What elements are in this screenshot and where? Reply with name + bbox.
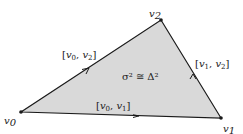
vertex-label-v2: v2 <box>149 8 161 21</box>
vertex-v0 <box>19 110 23 114</box>
vertex-label-v0: v0 <box>4 115 17 128</box>
face-label: σ² ≅ Δ² <box>122 71 158 82</box>
simplex-diagram: v0 v1 v2 [v0, v2] [v1, v2] [v0, v1] σ² ≅… <box>0 0 243 134</box>
vertex-v1 <box>219 116 223 120</box>
edge-label-v1-v2: [v1, v2] <box>195 58 230 71</box>
vertex-label-v1: v1 <box>223 123 235 134</box>
edge-label-v0-v2: [v0, v2] <box>62 49 97 62</box>
